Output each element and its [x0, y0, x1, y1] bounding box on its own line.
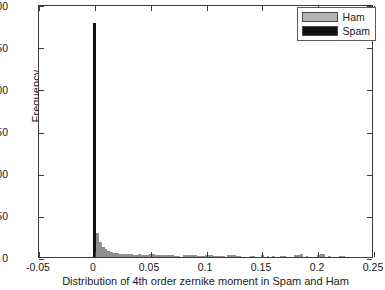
x-axis-tick [318, 252, 319, 257]
x-axis-tick [262, 6, 263, 11]
y-tick-label: 200 [0, 85, 8, 96]
x-axis-tick [207, 252, 208, 257]
x-axis-tick [95, 252, 96, 257]
histogram-bar [328, 256, 331, 257]
x-tick-label: 0.25 [345, 262, 385, 273]
x-tick-label: 0.2 [289, 262, 345, 273]
y-axis-tick [39, 259, 44, 260]
y-tick-label: 300 [0, 1, 8, 12]
x-axis-tick [151, 252, 152, 257]
legend-item-ham: Ham [302, 11, 370, 23]
y-axis-tick [367, 48, 372, 49]
y-axis-tick [39, 175, 44, 176]
histogram-bar [177, 256, 180, 257]
x-axis-tick [151, 6, 152, 11]
y-axis-tick [367, 133, 372, 134]
histogram-bars [39, 6, 372, 257]
x-tick-label: -0.05 [10, 262, 66, 273]
x-axis-tick [374, 252, 375, 257]
y-axis-tick [39, 133, 44, 134]
plot-area [38, 5, 373, 258]
y-tick-label: 150 [0, 127, 8, 138]
y-tick-label: 0 [0, 253, 8, 264]
histogram-bar [342, 256, 345, 257]
x-axis-tick [39, 252, 40, 257]
y-tick-label: 250 [0, 43, 8, 54]
legend-label-ham: Ham [343, 12, 365, 23]
x-tick-label: 0 [65, 262, 121, 273]
x-axis-tick [95, 6, 96, 11]
histogram-bar [253, 256, 256, 257]
chart-legend: Ham Spam [297, 7, 376, 41]
histogram-bar [322, 254, 325, 257]
y-tick-label: 100 [0, 169, 8, 180]
histogram-bar [93, 23, 96, 257]
histogram-bar [239, 256, 242, 257]
y-axis-tick [39, 48, 44, 49]
legend-item-spam: Spam [302, 25, 370, 37]
histogram-bar [306, 256, 309, 257]
y-axis-tick [367, 259, 372, 260]
legend-swatch-ham [302, 12, 338, 22]
histogram-bar [267, 256, 270, 257]
x-tick-label: 0.05 [121, 262, 177, 273]
legend-label-spam: Spam [343, 26, 370, 37]
histogram-bar [272, 256, 275, 257]
x-axis-tick [39, 6, 40, 11]
histogram-bar [222, 256, 225, 257]
y-axis-tick [367, 175, 372, 176]
histogram-bar [283, 256, 286, 257]
y-axis-tick [39, 217, 44, 218]
histogram-figure: Frequency 0 50 100 150 200 250 300 -0.05… [0, 0, 385, 290]
histogram-bar [300, 254, 303, 257]
y-axis-tick [367, 90, 372, 91]
x-axis-label: Distribution of 4th order zernike moment… [38, 275, 373, 287]
y-tick-label: 50 [0, 211, 8, 222]
x-tick-label: 0.1 [177, 262, 233, 273]
y-axis-tick [39, 90, 44, 91]
x-axis-tick [207, 6, 208, 11]
x-axis-tick [262, 252, 263, 257]
legend-swatch-spam [302, 26, 338, 36]
y-axis-tick [367, 217, 372, 218]
x-tick-label: 0.15 [233, 262, 289, 273]
